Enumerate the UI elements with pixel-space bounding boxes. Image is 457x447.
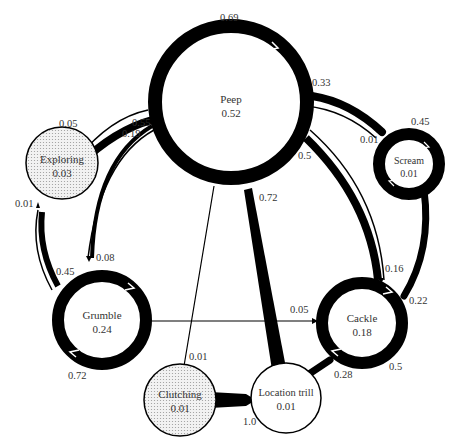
node-scream-value: 0.01 — [400, 168, 418, 179]
node-location-trill[interactable]: Location trill 0.01 — [251, 363, 321, 433]
label-peep-self: 0.69 — [220, 12, 238, 23]
node-cackle[interactable]: Cackle 0.18 — [322, 283, 402, 363]
node-exploring-value: 0.03 — [52, 167, 72, 179]
edge-trill-peep — [244, 188, 286, 370]
label-exploring-to-peep: 0.55 — [132, 117, 150, 128]
label-scream-to-peep: 0.33 — [312, 77, 330, 88]
label-trill-to-peep: 0.72 — [259, 192, 277, 203]
node-peep-name: Peep — [220, 93, 242, 105]
node-exploring-name: Exploring — [40, 153, 84, 165]
node-peep[interactable]: Peep 0.52 — [155, 26, 307, 178]
label-peep-to-exploring: 0.05 — [59, 118, 77, 129]
node-scream[interactable]: Scream 0.01 — [379, 134, 439, 194]
label-grumble-self: 0.72 — [68, 370, 86, 381]
label-peep-to-grumble: 0.08 — [96, 252, 114, 263]
edge-exploring-grumble — [36, 202, 58, 290]
node-scream-name: Scream — [394, 155, 424, 166]
label-cackle-self: 0.5 — [389, 361, 402, 372]
node-cackle-value: 0.18 — [352, 326, 372, 338]
label-peep-to-clutching: 0.01 — [189, 351, 207, 362]
edge-scream-peep — [306, 96, 382, 138]
label-peep-to-cackle: 0.16 — [385, 263, 403, 274]
node-clutching-value: 0.01 — [170, 402, 189, 414]
edge-grumble-cackle — [150, 318, 318, 324]
node-grumble-value: 0.24 — [92, 323, 112, 335]
label-scream-to-cackle: 0.22 — [409, 295, 427, 306]
label-trill-to-cackle: 0.28 — [334, 369, 352, 380]
node-clutching[interactable]: Clutching 0.01 — [144, 364, 216, 436]
edge-clutching-trill — [210, 392, 256, 408]
label-peep-to-scream: 0.01 — [360, 134, 378, 145]
node-peep-value: 0.52 — [221, 107, 240, 119]
label-grumble-to-exploring: 0.01 — [15, 198, 33, 209]
label-cackle-to-peep: 0.5 — [298, 150, 311, 161]
node-location-trill-name: Location trill — [258, 387, 313, 398]
label-grumble-to-cackle: 0.05 — [290, 304, 308, 315]
node-cackle-name: Cackle — [347, 312, 378, 324]
transition-diagram: Peep 0.52 Exploring 0.03 Scream 0.01 Gru… — [0, 0, 457, 447]
label-scream-self: 0.45 — [411, 116, 429, 127]
label-grumble-to-peep: 0.19 — [122, 128, 140, 139]
node-grumble[interactable]: Grumble 0.24 — [58, 276, 146, 364]
label-exploring-to-grumble: 0.45 — [56, 266, 74, 277]
label-clutching-to-trill: 1.0 — [243, 416, 256, 427]
edge-scream-cackle — [404, 190, 426, 296]
edge-peep-cackle — [306, 130, 384, 284]
node-grumble-name: Grumble — [82, 309, 121, 321]
node-location-trill-value: 0.01 — [276, 400, 295, 412]
node-clutching-name: Clutching — [158, 388, 202, 400]
node-exploring[interactable]: Exploring 0.03 — [26, 127, 98, 199]
edge-peep-clutching — [181, 186, 214, 370]
